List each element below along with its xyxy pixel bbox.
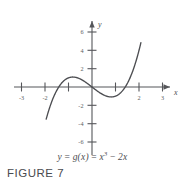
y-tick-label--4: -4	[78, 120, 83, 127]
equation-term1-exponent: 3	[104, 150, 108, 157]
y-tick-label-2: 2	[80, 65, 83, 72]
function-curve	[46, 43, 141, 119]
equation-equals-2: =	[91, 152, 97, 162]
y-axis-arrow-icon	[89, 21, 94, 28]
y-tick-label-4: 4	[80, 47, 83, 54]
equation-equals-1: =	[65, 152, 71, 162]
cubic-function-plot: -3 -2 2 3 6 4 2 -2 -4 -6 x y	[0, 0, 185, 160]
x-tick-label-2: 2	[137, 94, 140, 101]
x-tick-label--3: -3	[19, 94, 24, 101]
equation-operator: −	[110, 152, 116, 162]
figure-caption: FIGURE 7	[7, 167, 64, 179]
y-tick-label-6: 6	[80, 28, 83, 35]
y-axis-label: y	[97, 20, 102, 29]
y-tick-label--2: -2	[78, 102, 83, 109]
equation-label: y = g(x) = x3 − 2x	[0, 150, 185, 162]
figure-container: -3 -2 2 3 6 4 2 -2 -4 -6 x y y = g(x) = …	[0, 0, 185, 189]
x-tick-label-3: 3	[161, 94, 164, 101]
equation-term2: 2x	[118, 152, 127, 162]
equation-function: g(x)	[73, 152, 89, 162]
x-tick-label--2: -2	[42, 94, 47, 101]
x-axis-label: x	[173, 88, 178, 97]
y-tick-label--6: -6	[78, 138, 83, 145]
x-axis-arrow-icon	[164, 84, 171, 89]
equation-lhs: y	[58, 152, 62, 162]
